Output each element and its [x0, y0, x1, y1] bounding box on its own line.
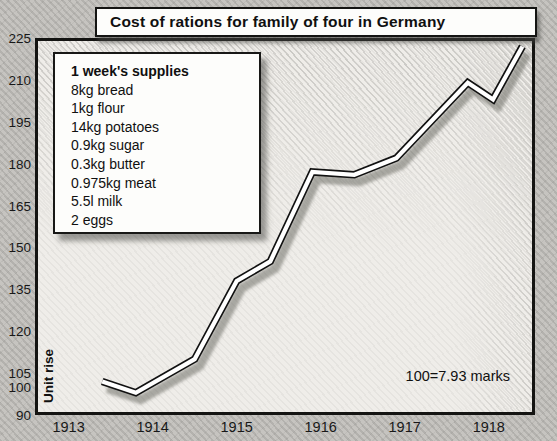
x-tick-label: 1918: [473, 419, 505, 435]
legend-item-butter: 0.3kg butter: [71, 155, 249, 174]
legend-item-flour: 1kg flour: [71, 99, 249, 118]
x-tick-label: 1916: [305, 419, 337, 435]
y-tick-label: 165: [0, 198, 31, 213]
x-tick-label: 1914: [136, 419, 168, 435]
legend-heading: 1 week's supplies: [71, 62, 249, 81]
x-tick-label: 1917: [389, 419, 421, 435]
legend-item-sugar: 0.9kg sugar: [71, 136, 249, 155]
ration-cost-chart-page: Cost of rations for family of four in Ge…: [0, 0, 557, 441]
y-tick-label: 180: [0, 156, 31, 171]
supplies-legend-box: 1 week's supplies 8kg bread 1kg flour 14…: [53, 52, 261, 234]
legend-item-milk: 5.5l milk: [71, 192, 249, 211]
y-tick-label: 90: [0, 408, 31, 423]
y-tick-label: 100: [0, 380, 31, 395]
legend-item-meat: 0.975kg meat: [71, 174, 249, 193]
legend-item-bread: 8kg bread: [71, 81, 249, 100]
y-tick-label: 225: [0, 31, 31, 46]
y-tick-label: 120: [0, 324, 31, 339]
x-tick-label: 1915: [221, 419, 253, 435]
chart-title: Cost of rations for family of four in Ge…: [110, 13, 445, 31]
x-tick-label: 1913: [52, 419, 84, 435]
index-base-annotation: 100=7.93 marks: [406, 368, 510, 384]
y-tick-label: 150: [0, 240, 31, 255]
chart-title-box: Cost of rations for family of four in Ge…: [95, 7, 537, 37]
y-tick-label: 135: [0, 282, 31, 297]
legend-item-potatoes: 14kg potatoes: [71, 118, 249, 137]
legend-item-eggs: 2 eggs: [71, 211, 249, 230]
y-axis-title: Unit rise: [41, 349, 56, 403]
y-tick-label: 105: [0, 366, 31, 381]
y-tick-label: 210: [0, 72, 31, 87]
hatch-texture-right: [453, 41, 532, 412]
y-tick-label: 195: [0, 114, 31, 129]
